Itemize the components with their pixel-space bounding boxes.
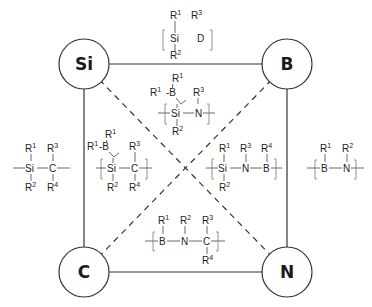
svg-text:R1: R1 bbox=[105, 128, 116, 140]
svg-text:R2: R2 bbox=[180, 214, 191, 226]
svg-text:R3: R3 bbox=[193, 86, 204, 98]
structure-si-b-n: R1 R1 -B R3 Si N R2 bbox=[150, 72, 215, 137]
svg-text:R2: R2 bbox=[342, 142, 353, 154]
svg-text:B: B bbox=[263, 163, 270, 174]
svg-text:R3: R3 bbox=[47, 142, 58, 154]
structure-si-c-b: R1 R1 -B R3 Si C R2 R4 bbox=[87, 128, 152, 193]
structure-b-n: R1 R2 B N bbox=[307, 142, 364, 179]
svg-text:R2: R2 bbox=[170, 49, 181, 61]
svg-text:R2: R2 bbox=[107, 181, 118, 193]
node-label-c: C bbox=[78, 262, 90, 282]
structure-si-b: R1 R3 Si D R2 bbox=[163, 9, 212, 61]
svg-text:R3: R3 bbox=[129, 140, 140, 152]
svg-text:R4: R4 bbox=[261, 142, 272, 154]
svg-text:R2: R2 bbox=[25, 181, 36, 193]
svg-text:Si: Si bbox=[107, 163, 116, 174]
structure-si-c: R1 R3 Si C R2 R4 bbox=[13, 142, 70, 193]
svg-text:B: B bbox=[159, 236, 166, 247]
svg-text:R1: R1 bbox=[150, 86, 161, 98]
node-c: C bbox=[59, 247, 109, 297]
node-si: Si bbox=[59, 39, 109, 89]
svg-text:Si: Si bbox=[171, 108, 180, 119]
svg-text:N: N bbox=[343, 163, 350, 174]
svg-text:R1: R1 bbox=[320, 142, 331, 154]
svg-text:C: C bbox=[49, 163, 56, 174]
svg-text:Si: Si bbox=[170, 33, 179, 44]
svg-text:R2: R2 bbox=[172, 125, 183, 137]
structure-si-n-b: R1 R3 R4 Si N B R2 bbox=[206, 142, 282, 193]
node-label-b: B bbox=[281, 54, 294, 74]
svg-text:R3: R3 bbox=[240, 142, 251, 154]
svg-text:N: N bbox=[195, 108, 202, 119]
svg-text:N: N bbox=[181, 236, 188, 247]
structure-b-n-c: R1 R2 R3 B N C R4 bbox=[145, 214, 225, 266]
node-label-n: N bbox=[280, 262, 294, 282]
svg-text:D: D bbox=[197, 33, 204, 44]
svg-text:C: C bbox=[131, 163, 138, 174]
svg-text:R4: R4 bbox=[47, 181, 58, 193]
svg-text:R3: R3 bbox=[202, 214, 213, 226]
svg-text:-B: -B bbox=[99, 141, 109, 152]
svg-text:R1: R1 bbox=[219, 142, 230, 154]
svg-text:Si: Si bbox=[25, 163, 34, 174]
svg-text:R1: R1 bbox=[87, 140, 98, 152]
node-b: B bbox=[262, 39, 312, 89]
node-label-si: Si bbox=[75, 54, 93, 74]
svg-text:B: B bbox=[321, 163, 328, 174]
svg-text:C: C bbox=[203, 236, 210, 247]
svg-text:R2: R2 bbox=[219, 181, 230, 193]
svg-text:R1: R1 bbox=[25, 142, 36, 154]
node-n: N bbox=[262, 247, 312, 297]
svg-text:-B: -B bbox=[166, 87, 176, 98]
svg-text:R3: R3 bbox=[191, 9, 202, 21]
svg-text:Si: Si bbox=[218, 163, 227, 174]
svg-text:N: N bbox=[242, 163, 249, 174]
svg-text:R1: R1 bbox=[158, 214, 169, 226]
svg-text:R4: R4 bbox=[129, 181, 140, 193]
svg-text:R4: R4 bbox=[202, 254, 213, 266]
si-b-c-n-system-diagram: Si B C N R1 R3 Si D R2 R1 R1 -B R3 Si N bbox=[0, 0, 372, 307]
svg-text:R1: R1 bbox=[172, 72, 183, 84]
svg-text:R1: R1 bbox=[170, 9, 181, 21]
